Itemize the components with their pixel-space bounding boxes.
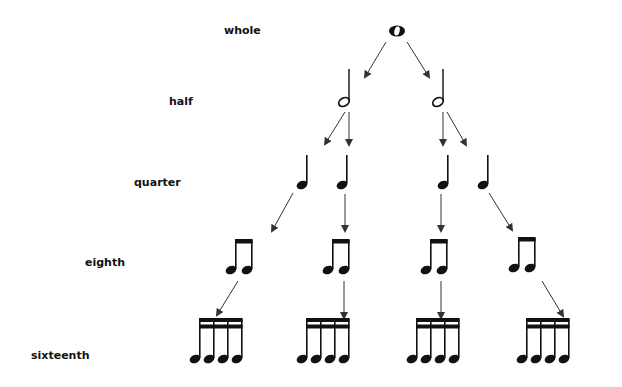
quarter-note-2 <box>335 155 349 191</box>
note-tree-diagram <box>0 0 622 387</box>
sixteenth-group-1 <box>188 318 244 365</box>
half-note-1 <box>337 69 351 108</box>
eighth-pair-4 <box>507 237 537 274</box>
eighth-pair-1 <box>224 239 254 276</box>
whole-note <box>389 26 405 37</box>
quarter-note-3 <box>436 155 450 191</box>
half-note-2 <box>431 69 445 108</box>
eighth-pair-2 <box>321 239 351 276</box>
sixteenth-group-3 <box>405 318 461 365</box>
eighth-pair-3 <box>419 239 449 276</box>
sixteenth-group-2 <box>295 318 351 365</box>
quarter-note-1 <box>295 155 309 191</box>
sixteenth-group-4 <box>515 318 571 365</box>
quarter-note-4 <box>476 155 490 191</box>
